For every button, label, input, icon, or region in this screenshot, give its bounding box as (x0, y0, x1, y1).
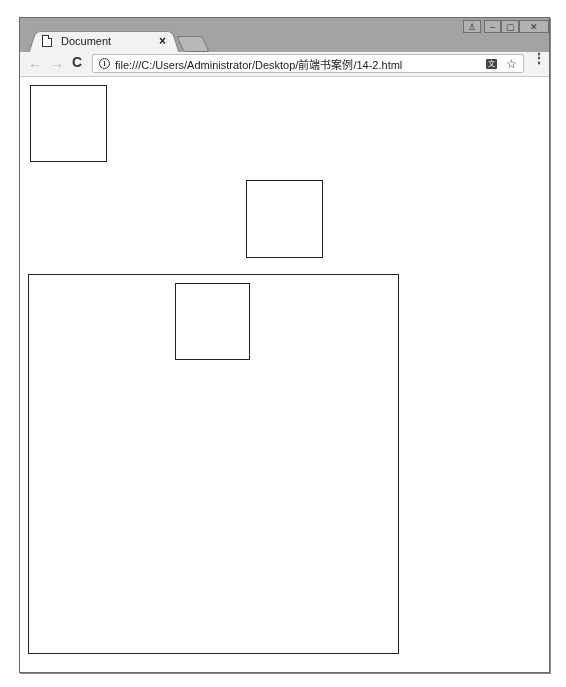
browser-window: Document × ♙ – ▢ ✕ ← → C i file:///C:/Us… (19, 17, 550, 673)
box-2 (246, 180, 323, 258)
address-bar[interactable]: i file:///C:/Users/Administrator/Desktop… (92, 54, 524, 73)
box-1 (30, 85, 107, 162)
user-icon[interactable]: ♙ (463, 20, 481, 33)
inner-box (175, 283, 250, 360)
back-button[interactable]: ← (28, 55, 42, 71)
page-content (20, 77, 549, 672)
title-bar: Document × ♙ – ▢ ✕ (20, 18, 549, 52)
info-icon[interactable]: i (99, 58, 110, 69)
tab-title: Document (61, 35, 159, 47)
translate-icon[interactable]: 文 (486, 59, 497, 69)
url-text[interactable]: file:///C:/Users/Administrator/Desktop/前… (115, 56, 486, 72)
reload-button[interactable]: C (72, 54, 82, 70)
browser-toolbar: ← → C i file:///C:/Users/Administrator/D… (20, 52, 549, 77)
tab-close-button[interactable]: × (159, 34, 166, 48)
new-tab-button[interactable] (176, 36, 209, 52)
minimize-button[interactable]: – (484, 20, 501, 33)
tab-document[interactable]: Document × (34, 30, 174, 52)
close-window-button[interactable]: ✕ (519, 20, 549, 33)
bookmark-star-icon[interactable]: ☆ (506, 57, 517, 71)
document-icon (42, 35, 52, 47)
menu-icon[interactable]: ⋮ (533, 56, 545, 61)
maximize-button[interactable]: ▢ (501, 20, 519, 33)
forward-button[interactable]: → (50, 55, 64, 71)
